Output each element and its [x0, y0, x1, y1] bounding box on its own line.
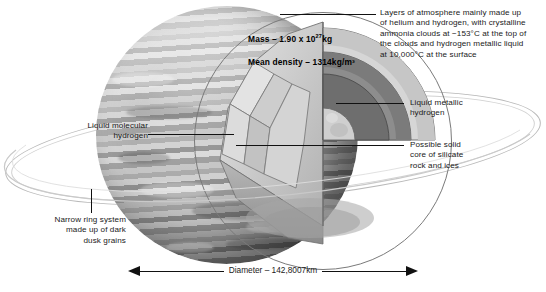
annotation-atmosphere: Layers of atmosphere mainly made up of h… — [380, 8, 544, 60]
core-texture — [326, 113, 338, 123]
leader-core — [236, 145, 404, 146]
mass-unit: kg — [322, 34, 332, 44]
mass-stat: Mass – 1.90 x 1027kg — [248, 33, 332, 44]
leader-atmosphere — [280, 14, 376, 15]
annotation-ring-system: Narrow ring system made up of dark dusk … — [0, 215, 126, 246]
annotation-liquid-molecular-hydrogen: Liquid molecular hydrogen — [44, 121, 148, 142]
core-texture — [330, 123, 348, 137]
mass-text: Mass – 1.90 x 10 — [248, 34, 316, 44]
cavity-floor-ring — [264, 207, 360, 237]
jupiter-diagram: Mass – 1.90 x 1027kg Mean density – 1314… — [0, 0, 546, 292]
leader-liquid-metallic-hydrogen — [336, 103, 404, 104]
diameter-measurement: Diameter – 142,8007km — [128, 262, 418, 282]
annotation-liquid-metallic-hydrogen: Liquid metallic hydrogen — [410, 98, 542, 119]
leader-ring-system — [91, 189, 92, 213]
density-stat: Mean density – 1314kg/m³ — [248, 57, 355, 67]
leader-liquid-molecular-hydrogen — [148, 134, 234, 135]
annotation-core: Possible solid core of silicate rock and… — [410, 140, 542, 171]
diameter-label: Diameter – 142,8007km — [128, 265, 418, 275]
